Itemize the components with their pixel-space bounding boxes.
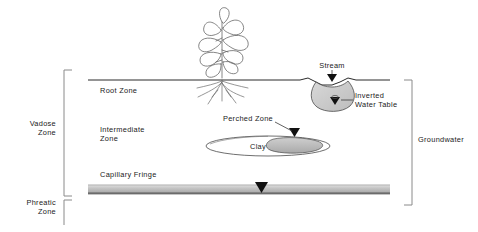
inverted-water-table-label-line2: Water Table <box>355 100 397 109</box>
intermediate-zone-label-line1: Intermediate <box>100 125 145 134</box>
vadose-zone-label-line2: Zone <box>38 128 56 137</box>
phreatic-zone-label-line2: Zone <box>38 207 56 216</box>
perched-zone-leader <box>275 122 292 131</box>
groundwater-label: Groundwater <box>418 135 464 144</box>
capillary-fringe-band <box>88 185 390 195</box>
plant-illustration <box>197 8 248 104</box>
clay-lens-label: Clay <box>250 142 266 151</box>
stream-surface-marker <box>327 70 337 82</box>
vadose-zone-bracket <box>64 70 72 196</box>
root-zone-label: Root Zone <box>100 86 137 95</box>
clay-lens <box>206 136 330 156</box>
perched-zone-label: Perched Zone <box>223 114 273 123</box>
stream-feature <box>311 81 354 111</box>
intermediate-zone-label-line2: Zone <box>100 134 118 143</box>
stream-label: Stream <box>319 61 345 70</box>
plant-roots <box>197 80 248 104</box>
perched-water-table-marker <box>289 128 300 137</box>
diagram-canvas: Vadose Zone Phreatic Zone Groundwater Ro… <box>0 0 478 232</box>
capillary-fringe-label: Capillary Fringe <box>100 170 157 179</box>
phreatic-zone-bracket <box>64 200 72 225</box>
perched-zone-shading <box>266 138 322 154</box>
groundwater-bracket <box>404 80 412 205</box>
vadose-zone-label-line1: Vadose <box>30 119 56 128</box>
hydrogeology-diagram: Vadose Zone Phreatic Zone Groundwater Ro… <box>0 0 478 232</box>
phreatic-zone-label-line1: Phreatic <box>26 198 56 207</box>
inverted-water-table-label-line1: Inverted <box>355 91 384 100</box>
